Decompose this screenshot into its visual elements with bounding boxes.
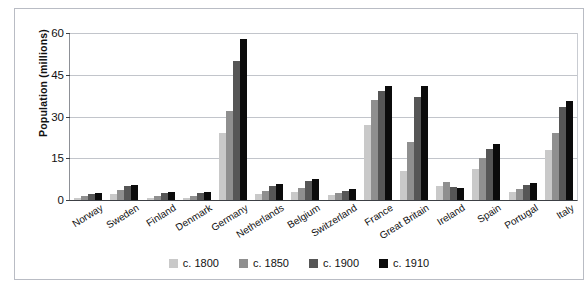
bar	[328, 195, 335, 200]
x-axis-tick-label: Finland	[144, 202, 178, 229]
bar	[545, 150, 552, 200]
bar	[530, 183, 537, 200]
bar	[233, 61, 240, 200]
bar	[168, 192, 175, 200]
bar	[400, 171, 407, 200]
bar	[154, 196, 161, 200]
bar	[305, 181, 312, 200]
bar	[190, 196, 197, 200]
legend-label: c. 1800	[183, 257, 219, 269]
y-axis-tick-mark	[66, 200, 70, 201]
y-axis-tick-label: 60	[51, 27, 64, 39]
x-axis-tick-label: Ireland	[435, 202, 467, 228]
bar-group	[179, 33, 215, 200]
plot-area: 015304560	[69, 33, 578, 201]
bar	[240, 39, 247, 200]
bar-group	[106, 33, 142, 200]
bar-group	[215, 33, 251, 200]
bar	[342, 191, 349, 200]
legend-label: c. 1850	[253, 257, 289, 269]
bar-group	[287, 33, 323, 200]
bar	[479, 158, 486, 200]
legend-swatch-icon	[169, 259, 178, 268]
bar	[371, 100, 378, 200]
x-axis-tick-label: Portugal	[502, 202, 539, 231]
bar	[124, 186, 131, 200]
bar	[147, 198, 154, 200]
legend-item[interactable]: c. 1910	[379, 257, 429, 269]
bar	[131, 185, 138, 200]
bar	[566, 101, 573, 200]
bar-group	[142, 33, 178, 200]
x-axis-tick-label: Spain	[476, 202, 504, 225]
bar	[74, 198, 81, 201]
legend-item[interactable]: c. 1800	[169, 257, 219, 269]
bar-group	[396, 33, 432, 200]
bar	[493, 144, 500, 200]
bar	[349, 189, 356, 200]
bar-group	[251, 33, 287, 200]
legend-item[interactable]: c. 1850	[239, 257, 289, 269]
bar	[183, 198, 190, 201]
bar	[436, 186, 443, 200]
bar	[226, 111, 233, 200]
bar	[255, 194, 262, 200]
bar	[450, 187, 457, 200]
legend-item[interactable]: c. 1900	[309, 257, 359, 269]
x-axis-tick-label: Denmark	[173, 202, 213, 233]
bar-series-container	[70, 33, 577, 200]
bar-group	[70, 33, 106, 200]
bar	[385, 86, 392, 200]
chart-figure: Population (millions) 015304560 NorwaySw…	[14, 8, 584, 280]
bar-group	[505, 33, 541, 200]
bar	[197, 193, 204, 200]
chart-legend: c. 1800c. 1850c. 1900c. 1910	[15, 257, 583, 269]
bar	[421, 86, 428, 200]
bar	[509, 192, 516, 200]
bar	[219, 133, 226, 200]
y-axis-tick-label: 30	[51, 111, 64, 123]
bar	[559, 107, 566, 200]
legend-label: c. 1910	[393, 257, 429, 269]
y-axis-tick-label: 45	[51, 69, 64, 81]
bar	[486, 149, 493, 200]
x-axis-tick-label: Italy	[554, 202, 575, 221]
bar	[95, 193, 102, 200]
bar-group	[432, 33, 468, 200]
bar	[523, 185, 530, 200]
legend-label: c. 1900	[323, 257, 359, 269]
bar	[110, 194, 117, 200]
bar	[88, 194, 95, 200]
bar	[472, 169, 479, 200]
bar	[262, 191, 269, 200]
bar	[204, 192, 211, 200]
bar	[335, 193, 342, 200]
bar	[457, 188, 464, 200]
bar-group	[360, 33, 396, 200]
bar	[269, 186, 276, 200]
x-axis-tick-label: Norway	[70, 202, 105, 229]
bar	[364, 125, 371, 200]
bar-group	[324, 33, 360, 200]
bar	[298, 188, 305, 200]
bar	[414, 97, 421, 200]
x-axis-category-labels: NorwaySwedenFinlandDenmarkGermanyNetherl…	[69, 202, 576, 264]
bar-group	[541, 33, 577, 200]
bar	[117, 190, 124, 200]
legend-swatch-icon	[309, 259, 318, 268]
bar	[552, 133, 559, 200]
y-axis-tick-label: 0	[58, 194, 64, 206]
x-axis-tick-label: Sweden	[105, 202, 141, 230]
y-axis-title: Population (millions)	[37, 13, 49, 153]
bar	[312, 179, 319, 200]
bar-group	[468, 33, 504, 200]
bar	[443, 182, 450, 200]
bar	[516, 189, 523, 200]
bar	[81, 196, 88, 200]
bar	[407, 142, 414, 200]
bar	[161, 193, 168, 201]
legend-swatch-icon	[239, 259, 248, 268]
bar	[378, 91, 385, 200]
bar	[276, 184, 283, 200]
bar	[291, 192, 298, 200]
